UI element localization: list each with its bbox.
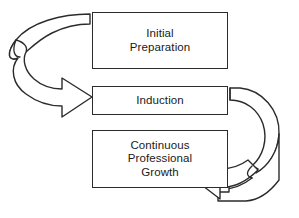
stage-label-induction: Induction: [132, 94, 188, 108]
stage-box-induction[interactable]: Induction: [92, 86, 228, 115]
diagram-canvas: Initial Preparation Induction Continuous…: [0, 0, 299, 218]
curved-arrow-icon-left: [9, 14, 92, 117]
stage-box-continuous-growth[interactable]: Continuous Professional Growth: [92, 130, 228, 188]
stage-label-continuous-growth: Continuous Professional Growth: [124, 139, 196, 180]
stage-box-initial-preparation[interactable]: Initial Preparation: [92, 12, 228, 69]
stage-label-initial-preparation: Initial Preparation: [126, 27, 195, 54]
